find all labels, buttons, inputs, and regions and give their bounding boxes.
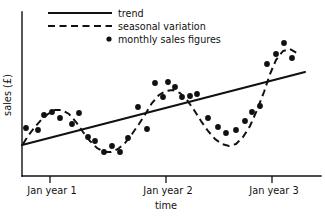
data-point bbox=[152, 80, 158, 86]
data-point bbox=[242, 118, 248, 124]
data-point bbox=[179, 94, 185, 100]
data-point bbox=[257, 103, 263, 109]
legend-trend-label: trend bbox=[118, 8, 144, 19]
x-axis-ticks bbox=[50, 176, 272, 183]
data-point bbox=[85, 134, 91, 140]
x-tick-label-2: Jan year 2 bbox=[142, 185, 192, 196]
chart-legend: trend seasonal variation monthly sales f… bbox=[48, 8, 221, 45]
x-tick-labels: Jan year 1 Jan year 2 Jan year 3 bbox=[26, 185, 298, 196]
monthly-sales-points bbox=[23, 40, 295, 155]
plot-area bbox=[22, 40, 305, 155]
data-point bbox=[172, 84, 178, 90]
data-point bbox=[160, 94, 166, 100]
data-point bbox=[76, 110, 82, 116]
data-point bbox=[205, 115, 211, 121]
data-point bbox=[281, 40, 287, 46]
data-point bbox=[109, 143, 115, 149]
y-axis-title: sales (£) bbox=[2, 74, 13, 116]
trend-line bbox=[22, 72, 305, 145]
data-point bbox=[215, 124, 221, 130]
data-point bbox=[223, 130, 229, 136]
legend-monthly-sample-dot bbox=[106, 36, 111, 41]
data-point bbox=[233, 127, 239, 133]
x-axis-title: time bbox=[155, 200, 177, 211]
data-point bbox=[144, 126, 150, 132]
data-point bbox=[289, 55, 295, 61]
legend-monthly-label: monthly sales figures bbox=[118, 34, 221, 45]
data-point bbox=[35, 127, 41, 133]
data-point bbox=[125, 135, 131, 141]
data-point bbox=[92, 138, 98, 144]
seasonal-variation-curve bbox=[23, 49, 297, 152]
seasonal-sales-chart: trend seasonal variation monthly sales f… bbox=[0, 0, 325, 216]
data-point bbox=[117, 149, 123, 155]
data-point bbox=[165, 79, 171, 85]
x-tick-label-1: Jan year 1 bbox=[26, 185, 76, 196]
data-point bbox=[23, 125, 29, 131]
data-point bbox=[249, 109, 255, 115]
data-point bbox=[273, 51, 279, 57]
data-point bbox=[101, 149, 107, 155]
data-point bbox=[69, 121, 75, 127]
data-point bbox=[41, 112, 47, 118]
x-tick-label-3: Jan year 3 bbox=[248, 185, 298, 196]
data-point bbox=[57, 115, 63, 121]
legend-seasonal-label: seasonal variation bbox=[118, 21, 206, 32]
data-point bbox=[187, 93, 193, 99]
data-point bbox=[264, 61, 270, 67]
data-point bbox=[194, 91, 200, 97]
data-point bbox=[49, 109, 55, 115]
chart-figure: trend seasonal variation monthly sales f… bbox=[0, 0, 325, 216]
data-point bbox=[135, 104, 141, 110]
